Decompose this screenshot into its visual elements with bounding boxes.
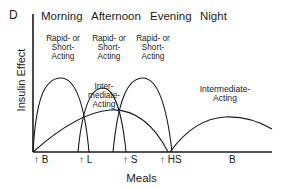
curve-label-rapid-supper: Rapid- or Short- Acting xyxy=(127,35,179,62)
up-arrow-icon: ↑ xyxy=(160,154,165,165)
curve-label-line-3: Acting xyxy=(79,101,129,110)
x-tick-text: B xyxy=(229,154,236,165)
up-arrow-icon: ↑ xyxy=(34,154,39,165)
insulin-effect-chart: D Insulin Effect Meals Morning Afternoon… xyxy=(0,0,283,188)
up-arrow-icon: ↑ xyxy=(123,154,128,165)
curve-label-line-3: Acting xyxy=(37,53,89,62)
x-tick-text: B xyxy=(42,154,49,165)
curve-intermediate-night xyxy=(170,117,272,152)
period-label-morning: Morning xyxy=(41,10,83,22)
x-axis-title: Meals xyxy=(0,172,283,184)
x-tick-label-breakfast: ↑ B xyxy=(34,155,48,166)
x-tick-text: HS xyxy=(168,154,182,165)
period-label-evening: Evening xyxy=(150,10,192,22)
period-label-night: Night xyxy=(200,10,227,22)
curve-label-intermediate-night: Intermediate- Acting xyxy=(185,85,265,104)
x-tick-text: S xyxy=(131,154,138,165)
x-tick-label-lunch: ↑ L xyxy=(79,155,92,166)
curve-label-line-2: Acting xyxy=(185,94,265,103)
y-axis-title: Insulin Effect xyxy=(15,20,27,140)
curve-label-line-3: Acting xyxy=(127,53,179,62)
x-tick-label-hs: ↑ HS xyxy=(160,155,182,166)
period-label-afternoon: Afternoon xyxy=(91,10,141,22)
curve-intermediate-daytime xyxy=(33,110,168,152)
curve-label-intermediate-daytime: Inter- mediate- Acting xyxy=(79,83,129,110)
x-tick-label-supper: ↑ S xyxy=(123,155,137,166)
curve-label-rapid-breakfast: Rapid- or Short- Acting xyxy=(37,35,89,62)
up-arrow-icon: ↑ xyxy=(79,154,84,165)
x-tick-label-next-breakfast: B xyxy=(229,155,236,166)
x-tick-text: L xyxy=(87,154,93,165)
